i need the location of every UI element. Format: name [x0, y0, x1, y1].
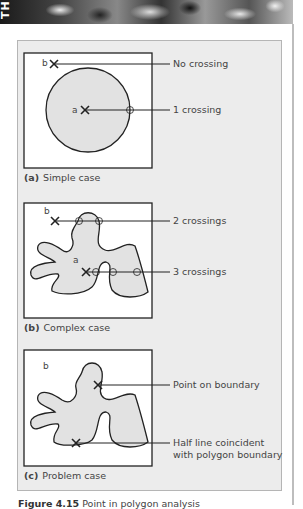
- panel-b-diagram: [24, 203, 170, 318]
- figure-caption: Figure 4.15 Point in polygon analysis: [18, 498, 200, 509]
- subcaption-title: Complex case: [43, 322, 110, 333]
- callout-no-crossing: No crossing: [173, 58, 228, 70]
- subcaption-a: (a)Simple case: [24, 172, 100, 183]
- callout-point-on-boundary: Point on boundary: [173, 379, 260, 391]
- subcaption-title: Problem case: [42, 470, 106, 481]
- subcaption-tag: (b): [24, 322, 39, 333]
- point-label-a: a: [73, 254, 79, 266]
- subcaption-tag: (c): [24, 470, 38, 481]
- point-label-b: b: [42, 57, 48, 69]
- figure-caption-text: Point in polygon analysis: [82, 498, 200, 509]
- panel-a-diagram: [24, 53, 170, 168]
- subcaption-c: (c)Problem case: [24, 470, 106, 481]
- subcaption-title: Simple case: [43, 172, 100, 183]
- figure-number: Figure 4.15: [18, 498, 79, 509]
- subcaption-b: (b)Complex case: [24, 322, 110, 333]
- callout-1-crossing: 1 crossing: [173, 104, 221, 116]
- callout-3-crossings: 3 crossings: [173, 266, 226, 278]
- callout-half-line-coincident: Half line coincident: [173, 437, 264, 449]
- point-label-a: a: [72, 104, 78, 116]
- callout-2-crossings: 2 crossings: [173, 215, 226, 227]
- point-label-b: b: [43, 360, 49, 372]
- subcaption-tag: (a): [24, 172, 39, 183]
- point-label-b: b: [44, 205, 50, 217]
- callout-with-polygon-boundary: with polygon boundary: [173, 449, 282, 461]
